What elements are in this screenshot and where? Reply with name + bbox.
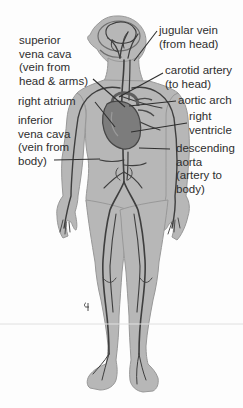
label-line: vena cava [18, 128, 70, 142]
circulatory-system-diagram: superior vena cava (vein from head & arm… [0, 0, 243, 408]
label-line: (to head) [165, 78, 232, 92]
label-line: (vein from [19, 61, 88, 75]
label-line: superior [19, 34, 88, 48]
label-line: ventricle [189, 124, 232, 138]
label-line: vena cava [19, 48, 88, 62]
label-line: head & arms) [19, 75, 88, 89]
label-line: body) [18, 155, 70, 169]
label-line: descending [176, 142, 235, 156]
print-artifact-mark [85, 303, 90, 311]
label-carotid-artery: carotid artery (to head) [165, 64, 232, 91]
label-line: carotid artery [165, 64, 232, 78]
label-aortic-arch: aortic arch [178, 94, 232, 108]
label-superior-vena-cava: superior vena cava (vein from head & arm… [19, 34, 88, 88]
label-line: (vein from [18, 141, 70, 155]
label-line: (from head) [159, 38, 218, 52]
label-right-atrium: right atrium [18, 95, 76, 109]
label-line: right atrium [18, 95, 76, 109]
label-line: aortic arch [178, 94, 232, 108]
label-inferior-vena-cava: inferior vena cava (vein from body) [18, 114, 70, 168]
label-line: inferior [18, 114, 70, 128]
label-descending-aorta: descending aorta (artery to body) [176, 142, 235, 196]
label-line: right [189, 110, 232, 124]
label-jugular-vein: jugular vein (from head) [159, 24, 218, 51]
label-line: jugular vein [159, 24, 218, 38]
label-line: aorta [176, 156, 235, 170]
label-right-ventricle: right ventricle [189, 110, 232, 137]
label-line: body) [176, 183, 235, 197]
label-line: (artery to [176, 169, 235, 183]
